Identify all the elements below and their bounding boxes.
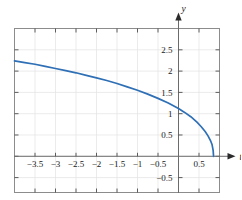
x-tick-label: −1	[133, 159, 143, 169]
chart-figure: −3.5−3−2.5−2−1.5−1−0.50.5 2.521.510.5−0.…	[0, 0, 241, 200]
y-tick-label: 0.5	[161, 130, 173, 140]
y-axis-label: y	[180, 4, 186, 14]
x-tick-label: 0.5	[193, 159, 205, 169]
x-tick-label: −1.5	[109, 159, 126, 169]
y-tick-label: −0.5	[156, 173, 173, 183]
y-tick-label: 2.5	[161, 45, 173, 55]
x-tick-label: −2.5	[68, 159, 85, 169]
x-tick-label: −3	[51, 159, 61, 169]
curve-series	[15, 61, 214, 156]
x-tick-label: −2	[92, 159, 102, 169]
y-tick-label: 1.5	[161, 88, 173, 98]
x-tick-label: −3.5	[27, 159, 44, 169]
y-tick-label: 1	[168, 109, 173, 119]
function-plot: −3.5−3−2.5−2−1.5−1−0.50.5 2.521.510.5−0.…	[0, 0, 241, 200]
y-tick-label: 2	[168, 66, 173, 76]
x-tick-label: −0.5	[150, 159, 167, 169]
t-axis-label: t	[240, 152, 242, 162]
